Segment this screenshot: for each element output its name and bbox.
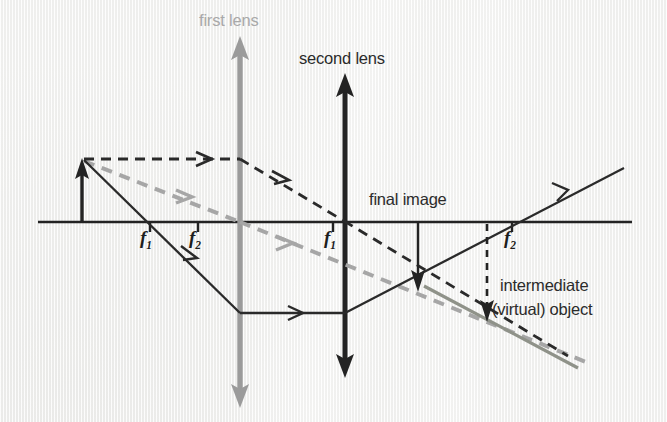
focal-label-f2-right-subscript: 2 (510, 239, 516, 251)
ray-continuation-gray (424, 286, 578, 368)
final-image-label: final image (369, 191, 447, 208)
focal-label-f2-left: f2 (189, 227, 201, 251)
final-image-arrow (411, 222, 425, 292)
focal-label-f1-left-subscript: 1 (146, 239, 152, 251)
optics-ray-diagram: first lens second lens final image inter… (0, 0, 667, 422)
focal-label-f1-right-subscript: 1 (330, 239, 336, 251)
virtual-object-label: (virtual) object (492, 301, 592, 318)
second-lens-label: second lens (299, 50, 385, 67)
ray-arrowhead-dark-2 (272, 171, 289, 184)
focal-label-f2-right: f2 (504, 227, 516, 251)
focal-label-f1-right: f1 (324, 227, 336, 251)
focal-label-f1-left: f1 (140, 227, 152, 251)
ray-chief-dark-solid (84, 160, 624, 320)
intermediate-label: intermediate (500, 277, 588, 294)
first-lens-label: first lens (199, 12, 258, 29)
object-arrow (75, 158, 89, 222)
ray-arrowhead-gray-2 (276, 236, 293, 250)
focal-label-f2-left-subscript: 2 (195, 239, 201, 251)
